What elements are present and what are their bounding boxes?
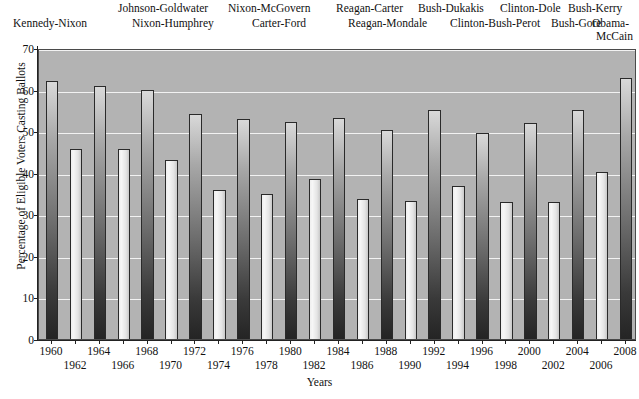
x-tick-mark-1972 [194, 340, 195, 344]
x-tick-label-1960: 1960 [39, 345, 62, 357]
bar-1972 [189, 114, 201, 339]
gridline-70 [39, 50, 635, 51]
bar-1968 [141, 90, 153, 339]
x-tick-mark-1996 [482, 340, 483, 344]
x-tick-mark-1962 [75, 340, 76, 344]
x-axis-title: Years [0, 376, 639, 388]
bar-2006 [596, 172, 608, 339]
x-tick-mark-2004 [577, 340, 578, 344]
x-tick-label-1974: 1974 [207, 359, 230, 371]
x-tick-label-1980: 1980 [279, 345, 302, 357]
x-tick-mark-1986 [362, 340, 363, 344]
bar-1976 [237, 119, 249, 339]
election-label-reagan-mondale: Reagan-Mondale [348, 17, 427, 30]
x-tick-mark-1994 [458, 340, 459, 344]
bar-2004 [572, 110, 584, 339]
y-tick-label-40: 40 [23, 168, 35, 180]
x-tick-mark-1998 [505, 340, 506, 344]
x-tick-label-1972: 1972 [183, 345, 206, 357]
bar-1992 [428, 110, 440, 339]
bar-2002 [548, 202, 560, 339]
x-tick-label-1968: 1968 [135, 345, 158, 357]
election-annotations: Johnson-Goldwater Nixon-McGovern Reagan-… [0, 0, 639, 49]
bar-1980 [285, 122, 297, 339]
x-tick-label-1992: 1992 [422, 345, 445, 357]
x-tick-label-1998: 1998 [494, 359, 517, 371]
bar-2000 [524, 123, 536, 339]
x-tick-label-1978: 1978 [255, 359, 278, 371]
bar-1986 [357, 199, 369, 339]
election-label-nixon-mcgovern: Nixon-McGovern [228, 2, 310, 15]
election-label-johnson-goldwater: Johnson-Goldwater [118, 2, 208, 15]
x-tick-label-1966: 1966 [111, 359, 134, 371]
x-tick-label-1990: 1990 [398, 359, 421, 371]
y-tick-label-60: 60 [23, 85, 35, 97]
x-axis-labels: 1960196219641966196819701972197419761978… [0, 341, 639, 381]
election-label-reagan-carter: Reagan-Carter [336, 2, 403, 15]
x-tick-label-1994: 1994 [446, 359, 469, 371]
x-tick-mark-1968 [147, 340, 148, 344]
election-label-carter-ford: Carter-Ford [252, 17, 306, 30]
x-tick-mark-2000 [529, 340, 530, 344]
x-tick-mark-1982 [314, 340, 315, 344]
election-label-obama-mccain-line2: McCain [596, 30, 633, 43]
election-label-nixon-humphrey: Nixon-Humphrey [132, 17, 214, 30]
bar-1960 [46, 81, 58, 339]
bar-1978 [261, 194, 273, 340]
election-label-kennedy-nixon: Kennedy-Nixon [13, 17, 87, 30]
y-axis-line [37, 46, 38, 341]
x-tick-mark-1966 [123, 340, 124, 344]
x-tick-label-1996: 1996 [470, 345, 493, 357]
bar-1990 [405, 201, 417, 339]
x-tick-mark-1984 [338, 340, 339, 344]
bar-1974 [213, 190, 225, 339]
x-tick-mark-2006 [601, 340, 602, 344]
y-tick-label-20: 20 [23, 251, 35, 263]
gridline-60 [39, 92, 635, 93]
x-tick-mark-1990 [410, 340, 411, 344]
x-tick-label-1984: 1984 [327, 345, 350, 357]
y-tick-label-70: 70 [23, 43, 35, 55]
x-tick-mark-1974 [218, 340, 219, 344]
plot-area-wrapper [38, 49, 636, 340]
bar-1982 [309, 179, 321, 339]
x-tick-mark-1964 [99, 340, 100, 344]
x-tick-mark-1988 [386, 340, 387, 344]
election-label-clinton-dole: Clinton-Dole [500, 2, 561, 15]
x-tick-label-2002: 2002 [542, 359, 565, 371]
bar-1966 [118, 149, 130, 339]
x-tick-label-1962: 1962 [63, 359, 86, 371]
x-tick-label-1982: 1982 [303, 359, 326, 371]
x-tick-label-2006: 2006 [590, 359, 613, 371]
x-tick-mark-2002 [553, 340, 554, 344]
election-label-clinton-bush-perot: Clinton-Bush-Perot [450, 17, 540, 30]
election-label-bush-kerry: Bush-Kerry [568, 2, 622, 15]
bar-1962 [70, 149, 82, 339]
bar-1996 [476, 133, 488, 339]
y-tick-label-10: 10 [23, 292, 35, 304]
x-tick-mark-2008 [625, 340, 626, 344]
election-label-obama-mccain-line1: Obama- [592, 17, 629, 30]
bar-1970 [165, 160, 177, 339]
x-tick-mark-1970 [171, 340, 172, 344]
x-tick-label-2000: 2000 [518, 345, 541, 357]
bar-2008 [620, 78, 632, 339]
bar-1988 [381, 130, 393, 339]
x-tick-mark-1978 [266, 340, 267, 344]
x-tick-label-1976: 1976 [231, 345, 254, 357]
bar-1998 [500, 202, 512, 339]
y-tick-label-50: 50 [23, 126, 35, 138]
x-tick-label-2008: 2008 [614, 345, 637, 357]
x-tick-label-1964: 1964 [87, 345, 110, 357]
y-tick-label-30: 30 [23, 209, 35, 221]
x-tick-label-1986: 1986 [350, 359, 373, 371]
election-label-bush-dukakis: Bush-Dukakis [418, 2, 484, 15]
x-tick-mark-1960 [51, 340, 52, 344]
plot-area [38, 49, 636, 340]
x-tick-mark-1980 [290, 340, 291, 344]
bar-1994 [452, 186, 464, 339]
y-axis-ticks: 010203040506070 [0, 49, 34, 340]
x-tick-label-2004: 2004 [566, 345, 589, 357]
bar-1984 [333, 118, 345, 339]
x-tick-label-1988: 1988 [374, 345, 397, 357]
